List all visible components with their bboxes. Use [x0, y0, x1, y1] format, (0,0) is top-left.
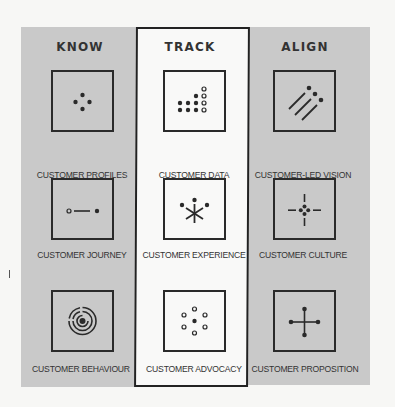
customer-led-vision-box: [273, 70, 336, 132]
label-customer-journey: CUSTOMER JOURNEY: [17, 250, 147, 260]
customer-behaviour-box: [51, 290, 114, 352]
label-customer-culture: CUSTOMER CULTURE: [238, 250, 368, 260]
concentric-target-icon: [53, 292, 112, 350]
customer-profiles-box: [51, 70, 114, 132]
margin-mark: [9, 270, 10, 278]
heading-track: TRACK: [130, 40, 250, 54]
label-customer-proposition: CUSTOMER PROPOSITION: [240, 364, 370, 374]
cross-dots-icon: [275, 292, 334, 350]
four-dots-icon: [53, 72, 112, 130]
crosshair-icon: [275, 180, 334, 238]
ring-of-circles-icon: [165, 292, 224, 350]
label-customer-behaviour: CUSTOMER BEHAVIOUR: [16, 364, 146, 374]
customer-experience-box: [163, 178, 226, 240]
heading-know: KNOW: [20, 40, 140, 54]
customer-advocacy-box: [163, 290, 226, 352]
heading-align: ALIGN: [245, 40, 365, 54]
customer-journey-box: [51, 178, 114, 240]
dot-grid-chart-icon: [165, 72, 224, 130]
diagonal-lines-dots-icon: [275, 72, 334, 130]
asterisk-dots-icon: [165, 180, 224, 238]
customer-proposition-box: [273, 290, 336, 352]
customer-culture-box: [273, 178, 336, 240]
journey-line-icon: [53, 180, 112, 238]
customer-data-box: [163, 70, 226, 132]
